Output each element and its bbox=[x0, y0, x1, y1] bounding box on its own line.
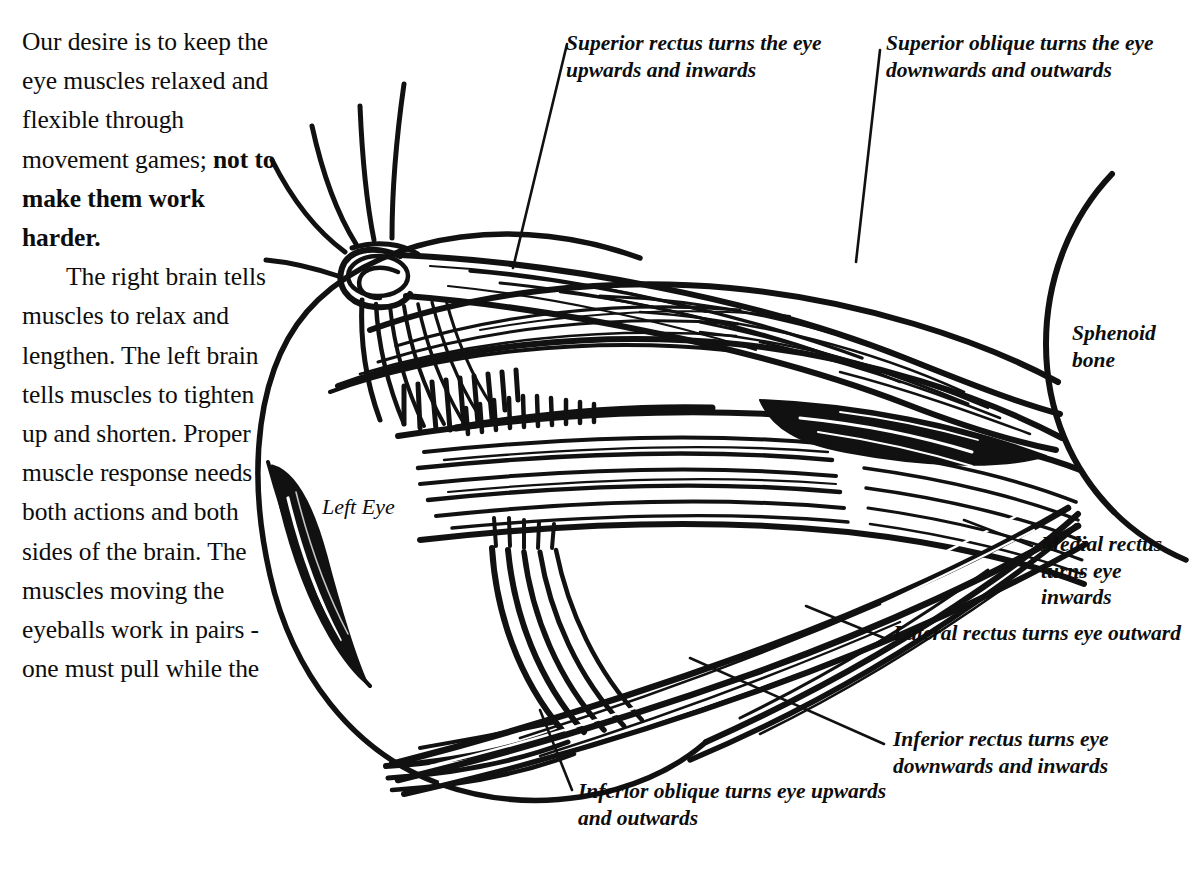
label-lateral-rectus: Lateral rectus turns eye outward bbox=[893, 620, 1193, 647]
page-root: Our desire is to keep the eye muscles re… bbox=[0, 0, 1199, 890]
body-text-column: Our desire is to keep the eye muscles re… bbox=[22, 22, 284, 688]
paragraph-2: The right brain tells muscles to relax a… bbox=[22, 257, 284, 688]
label-left-eye: Left Eye bbox=[322, 494, 462, 521]
label-medial-rectus: Medial rectus turns eye inwards bbox=[1041, 531, 1191, 611]
label-inferior-rectus: Inferior rectus turns eye downwards and … bbox=[893, 726, 1193, 779]
label-inferior-oblique: Inferior oblique turns eye upwards and o… bbox=[578, 778, 898, 831]
label-superior-oblique: Superior oblique turns the eye downwards… bbox=[886, 30, 1176, 83]
superior-oblique-muscle bbox=[218, 84, 1060, 450]
label-superior-rectus: Superior rectus turns the eye upwards an… bbox=[566, 30, 856, 83]
paragraph-1: Our desire is to keep the eye muscles re… bbox=[22, 22, 284, 257]
leader-superior-oblique bbox=[856, 50, 880, 262]
label-sphenoid-bone: Sphenoid bone bbox=[1072, 320, 1192, 373]
